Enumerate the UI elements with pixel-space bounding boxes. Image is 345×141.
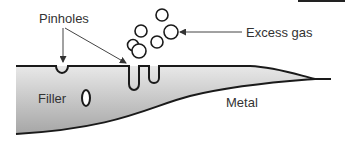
label-metal: Metal: [226, 95, 258, 110]
arrow-icon: [65, 28, 126, 63]
gas-bubble: [132, 44, 146, 58]
gas-bubble: [135, 25, 147, 37]
label-pinholes: Pinholes: [39, 11, 89, 26]
gas-bubbles: [128, 9, 179, 58]
gas-bubble: [164, 25, 178, 39]
pinhole-arrows: [63, 28, 126, 63]
label-excess-gas: Excess gas: [246, 25, 313, 40]
pinholes-diagram: Pinholes Excess gas Filler Metal: [0, 0, 345, 141]
label-filler: Filler: [38, 91, 67, 106]
gas-bubble: [151, 36, 163, 48]
filler-void: [82, 90, 90, 106]
gas-bubble: [156, 9, 168, 21]
